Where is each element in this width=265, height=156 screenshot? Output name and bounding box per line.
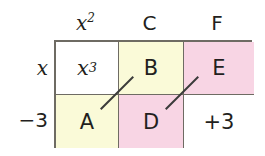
column-header-1-base: x [76,11,87,35]
column-header-1: x2 [54,8,117,38]
grid: x3 B E A D +3 [54,40,252,148]
cell-r2c2: D [119,95,184,148]
cell-r2c1: A [56,95,119,148]
column-header-2-base: C [143,11,157,35]
cell-r1c1: x3 [56,42,119,95]
cell-r1c1-base: x [77,56,89,80]
row-header-1: x [0,56,48,80]
cell-r2c1-base: A [80,110,94,134]
cell-r1c3: E [184,42,254,95]
cell-r2c3-base: +3 [204,110,235,134]
row-header-2: −3 [0,108,48,132]
cell-r1c2-base: B [144,56,158,80]
column-header-2: C [117,8,182,38]
column-header-3: F [182,8,252,38]
column-header-3-base: F [211,11,223,35]
cell-r2c2-base: D [143,110,159,134]
cell-r1c2: B [119,42,184,95]
column-header-1-exponent: 2 [87,11,95,25]
cell-r1c3-base: E [212,56,225,80]
box-method-grid-diagram: x2 C F x −3 x3 B E A D +3 [0,0,265,156]
cell-r2c3: +3 [184,95,254,148]
